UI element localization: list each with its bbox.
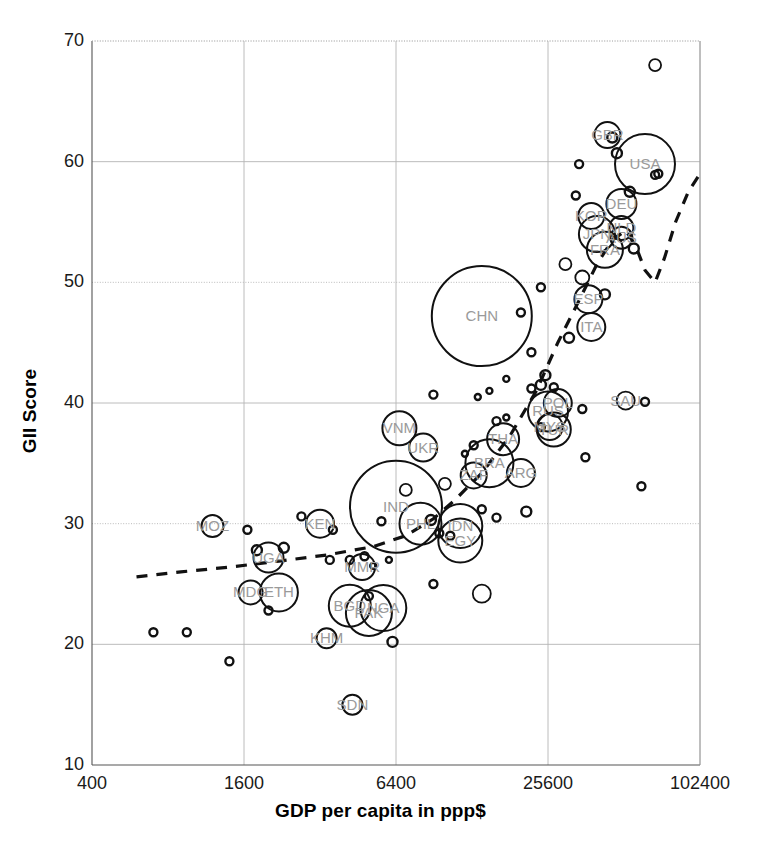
bubble-point[interactable] (575, 271, 589, 285)
x-tick-400: 400 (37, 773, 147, 794)
y-tick-20: 20 (30, 633, 84, 654)
bubble-label-gbr: GBR (591, 126, 624, 143)
bubble-point[interactable] (149, 628, 157, 636)
bubble-label-egy: EGY (444, 532, 476, 549)
bubble-label-nga: NGA (367, 599, 400, 616)
bubble-point[interactable] (439, 478, 451, 490)
bubble-point[interactable] (429, 391, 437, 399)
bubble-label-ken: KEN (305, 515, 336, 532)
bubble-point[interactable] (400, 484, 412, 496)
bubble-point[interactable] (527, 348, 535, 356)
bubble-label-chn: CHN (466, 307, 499, 324)
bubble-point[interactable] (486, 388, 492, 394)
bubble-label-sdn: SDN (337, 696, 369, 713)
bubble-point[interactable] (641, 398, 649, 406)
bubble-point[interactable] (503, 415, 509, 421)
bubble-point[interactable] (386, 557, 392, 563)
y-tick-10: 10 (30, 754, 84, 775)
y-tick-30: 30 (30, 513, 84, 534)
bubble-label-phl: PHL (406, 515, 435, 532)
bubble-point[interactable] (559, 258, 571, 270)
data-points (149, 59, 675, 715)
bubble-label-eth: ETH (264, 583, 294, 600)
y-axis-title: GII Score (19, 311, 41, 511)
bubble-label-tur: TUR (538, 421, 569, 438)
x-tick-25600: 25600 (493, 773, 603, 794)
bubble-label-mmr: MMR (344, 558, 380, 575)
bubble-label-vnm: VNM (383, 419, 416, 436)
bubble-point[interactable] (572, 192, 580, 200)
x-tick-1600: 1600 (189, 773, 299, 794)
bubble-point[interactable] (527, 385, 535, 393)
bubble-point[interactable] (517, 309, 525, 317)
bubble-point[interactable] (581, 453, 589, 461)
bubble-point[interactable] (326, 556, 334, 564)
y-tick-50: 50 (30, 271, 84, 292)
bubble-chart-figure: USAGBRDEUKORNLDAUSFRAESPITAJPNCHNRUSPOLS… (0, 0, 761, 853)
bubble-label-pol: POL (543, 394, 573, 411)
grid-lines (92, 41, 700, 765)
bubble-point[interactable] (183, 628, 191, 636)
bubble-point[interactable] (537, 283, 545, 291)
bubble-label-ind: IND (383, 498, 409, 515)
bubble-label-tha: THA (488, 430, 518, 447)
bubble-label-zaf: ZAF (460, 466, 488, 483)
bubble-label-deu: DEU (606, 195, 638, 212)
bubble-point[interactable] (243, 526, 251, 534)
bubble-label-moz: MOZ (196, 517, 229, 534)
y-tick-60: 60 (30, 151, 84, 172)
bubble-label-ita: ITA (580, 318, 602, 335)
bubble-label-usa: USA (630, 155, 661, 172)
bubble-point[interactable] (521, 507, 531, 517)
x-axis-title: GDP per capita in ppp$ (0, 800, 761, 822)
x-tick-102400: 102400 (645, 773, 755, 794)
bubble-label-khm: KHM (310, 629, 343, 646)
bubble-label-kor: KOR (575, 207, 608, 224)
bubble-label-ukr: UKR (407, 439, 439, 456)
bubble-label-sau: SAU (610, 392, 641, 409)
bubble-label-uga: UGA (252, 549, 285, 566)
bubble-label-fra: FRA (590, 241, 620, 258)
bubble-point[interactable] (473, 585, 491, 603)
bubble-point[interactable] (429, 580, 437, 588)
bubble-label-esp: ESP (573, 290, 603, 307)
bubble-point[interactable] (637, 482, 645, 490)
bubble-point[interactable] (649, 59, 661, 71)
bubble-point[interactable] (493, 514, 501, 522)
bubble-point[interactable] (575, 160, 583, 168)
x-tick-6400: 6400 (341, 773, 451, 794)
bubble-point[interactable] (225, 657, 233, 665)
bubble-point[interactable] (478, 505, 486, 513)
bubble-point[interactable] (564, 333, 574, 343)
data-point-labels: USAGBRDEUKORNLDAUSFRAESPITAJPNCHNRUSPOLS… (196, 126, 661, 713)
bubble-label-arg: ARG (505, 464, 538, 481)
bubble-label-mdg: MDG (233, 583, 268, 600)
bubble-point[interactable] (503, 376, 509, 382)
plot-area: USAGBRDEUKORNLDAUSFRAESPITAJPNCHNRUSPOLS… (0, 0, 761, 853)
y-tick-70: 70 (30, 30, 84, 51)
bubble-label-jpn: JPN (583, 225, 611, 242)
bubble-point[interactable] (475, 394, 481, 400)
bubble-point[interactable] (578, 405, 586, 413)
